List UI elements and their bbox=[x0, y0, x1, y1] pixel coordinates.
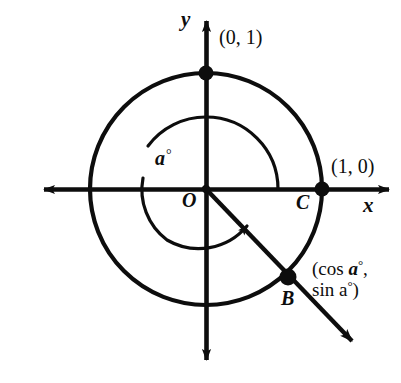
point-top-label: (0, 1) bbox=[219, 27, 262, 49]
point-c-dot bbox=[315, 182, 330, 197]
origin-label: O bbox=[182, 190, 196, 212]
angle-degree-symbol: ° bbox=[166, 147, 172, 162]
cos-variable: a bbox=[348, 258, 358, 279]
cos-prefix: (cos bbox=[312, 258, 348, 279]
point-top-dot bbox=[199, 66, 214, 81]
sin-prefix: sin bbox=[312, 279, 339, 300]
figure-canvas bbox=[0, 0, 401, 383]
coordinates-line-2: sin a°) bbox=[312, 279, 368, 300]
point-b-label: B bbox=[281, 288, 294, 310]
angle-label: a° bbox=[155, 147, 172, 169]
point-right-label: (1, 0) bbox=[331, 156, 374, 178]
unit-circle-figure: y x (0, 1) (1, 0) O C B a° (cos a°, sin … bbox=[0, 0, 401, 383]
point-c-label: C bbox=[296, 192, 309, 214]
point-b-dot bbox=[280, 269, 297, 286]
point-origin-dot bbox=[202, 185, 210, 193]
point-b-coordinates-label: (cos a°, sin a°) bbox=[312, 258, 368, 301]
angle-variable: a bbox=[155, 147, 165, 169]
y-axis-label: y bbox=[181, 8, 190, 31]
cos-suffix: , bbox=[363, 258, 368, 279]
x-axis-label: x bbox=[363, 194, 374, 217]
sin-suffix: ) bbox=[353, 279, 359, 300]
coordinates-line-1: (cos a°, bbox=[312, 258, 368, 279]
